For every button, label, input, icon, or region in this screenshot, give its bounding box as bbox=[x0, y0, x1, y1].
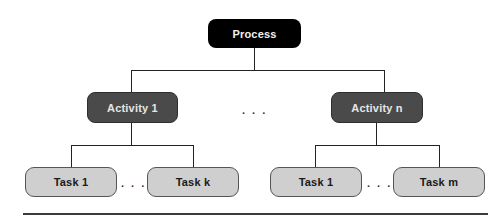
activity-n-label: Activity n bbox=[351, 102, 403, 114]
task-ellipsis-activity-1: . . . bbox=[121, 177, 146, 189]
task-ellipsis-activity-n: . . . bbox=[367, 177, 392, 189]
connector-activity-1-down bbox=[131, 123, 132, 145]
activity-1-label: Activity 1 bbox=[107, 102, 158, 114]
activity-ellipsis: . . . bbox=[242, 104, 267, 116]
activity-node-n: Activity n bbox=[331, 92, 423, 123]
task-node-k: Task k bbox=[147, 167, 239, 197]
task-1-label: Task 1 bbox=[54, 176, 89, 188]
bottom-divider bbox=[23, 213, 488, 215]
connector-task-1-up bbox=[71, 145, 72, 167]
task-k-label: Task k bbox=[176, 176, 211, 188]
connector-activity-n-horizontal bbox=[315, 145, 439, 146]
task-node-1: Task 1 bbox=[25, 167, 117, 197]
connector-root-horizontal bbox=[131, 70, 384, 71]
process-hierarchy-diagram: Process Activity 1 . . . Activity n Task… bbox=[0, 0, 504, 223]
task-1b-label: Task 1 bbox=[299, 176, 334, 188]
task-node-m: Task m bbox=[393, 167, 485, 197]
connector-activity-n-down bbox=[376, 123, 377, 145]
task-m-label: Task m bbox=[420, 176, 458, 188]
activity-node-1: Activity 1 bbox=[87, 92, 178, 123]
connector-activity-n-up bbox=[384, 70, 385, 92]
connector-root-down bbox=[254, 48, 255, 70]
connector-task-m-up bbox=[439, 145, 440, 167]
connector-task-1b-up bbox=[315, 145, 316, 167]
task-node-1b: Task 1 bbox=[270, 167, 362, 197]
process-node: Process bbox=[208, 19, 301, 48]
connector-activity-1-up bbox=[131, 70, 132, 92]
process-label: Process bbox=[232, 28, 276, 40]
connector-activity-1-horizontal bbox=[71, 145, 193, 146]
connector-task-k-up bbox=[193, 145, 194, 167]
